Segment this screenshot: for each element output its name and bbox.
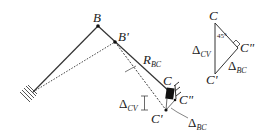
joint-c-block (165, 87, 174, 99)
tri-label-delta-bc: ΔBC (228, 58, 247, 75)
rotation-arc (125, 66, 136, 72)
label-b-prime: B' (118, 29, 129, 44)
tri-label-c-double-prime: C" (240, 40, 255, 55)
label-delta-bc: ΔBC (188, 115, 207, 132)
label-delta-cv: ΔCV (119, 96, 139, 113)
label-b: B (93, 10, 101, 25)
c-prime-to-c-dprime (166, 100, 175, 110)
joint-b-prime (113, 40, 117, 44)
deflected-member-ab (33, 42, 115, 92)
tri-label-angle: 45° (217, 32, 227, 40)
fixed-support (20, 85, 37, 102)
tri-label-c: C (209, 8, 218, 23)
c-to-c-prime (166, 98, 167, 110)
label-c-double-prime: C" (179, 92, 194, 107)
member-bc (98, 26, 170, 92)
delta-bc-leader (171, 108, 188, 118)
member-ab (33, 26, 98, 92)
delta-cv-dimension (141, 96, 148, 110)
label-c-prime: C' (151, 111, 163, 126)
tri-label-c-prime: C' (206, 72, 218, 87)
tri-label-delta-cv: ΔCV (192, 42, 212, 59)
label-c: C (163, 73, 172, 88)
joint-c-double-prime (174, 99, 177, 102)
diagram-canvas: B B' RBC C C" C' ΔCV ΔBC C C" C' 45° ΔCV… (0, 0, 267, 140)
label-r-bc: RBC (142, 52, 162, 69)
joint-c-prime (164, 108, 167, 111)
